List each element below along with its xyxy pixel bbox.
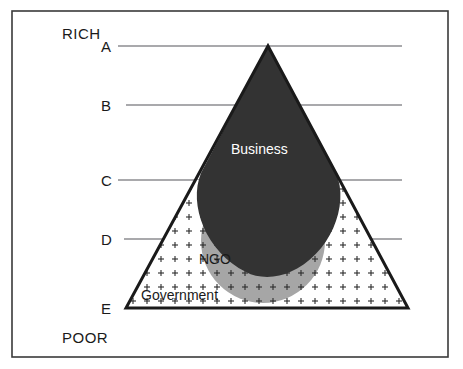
pyramid-venn-diagram bbox=[0, 0, 463, 369]
scale-label-b: B bbox=[101, 98, 111, 113]
region-label-government: Government bbox=[141, 288, 218, 302]
axis-label-poor: POOR bbox=[62, 330, 108, 345]
scale-label-d: D bbox=[101, 232, 112, 247]
axis-label-rich: RICH bbox=[62, 26, 101, 41]
scale-label-e: E bbox=[101, 301, 111, 316]
region-label-ngo: NGO bbox=[199, 252, 231, 266]
scale-label-c: C bbox=[101, 173, 112, 188]
region-label-business: Business bbox=[231, 142, 288, 156]
diagram-canvas: RICH POOR A B C D E Business NGO Governm… bbox=[0, 0, 463, 369]
scale-label-a: A bbox=[101, 39, 111, 54]
